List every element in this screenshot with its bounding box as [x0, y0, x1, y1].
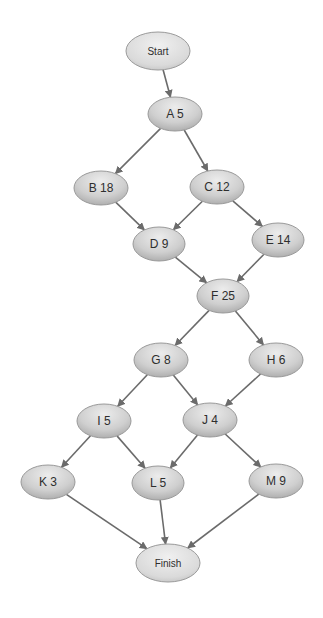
- node-D: D 9: [133, 227, 185, 261]
- node-label: Start: [147, 46, 168, 57]
- node-label: L 5: [150, 476, 167, 490]
- node-label: K 3: [39, 475, 57, 489]
- node-K: K 3: [21, 465, 75, 499]
- node-label: H 6: [267, 353, 286, 367]
- edge-G-to-J: [173, 375, 197, 405]
- node-F: F 25: [197, 279, 249, 313]
- edge-I-to-K: [62, 436, 91, 468]
- node-label: M 9: [266, 474, 286, 488]
- node-A: A 5: [148, 97, 202, 131]
- node-label: A 5: [166, 107, 184, 121]
- activity-network-diagram: StartA 5B 18C 12D 9E 14F 25G 8H 6I 5J 4K…: [0, 0, 323, 618]
- node-label: B 18: [89, 181, 114, 195]
- edge-G-to-I: [118, 375, 148, 407]
- node-E: E 14: [252, 223, 304, 257]
- edge-B-to-D: [116, 202, 145, 230]
- node-L: L 5: [132, 466, 184, 500]
- node-I: I 5: [77, 404, 131, 438]
- edge-J-to-L: [170, 435, 197, 468]
- nodes-layer: StartA 5B 18C 12D 9E 14F 25G 8H 6I 5J 4K…: [21, 32, 304, 582]
- edge-F-to-G: [175, 310, 209, 345]
- edge-I-to-L: [117, 436, 145, 468]
- edge-H-to-J: [225, 374, 260, 406]
- node-label: F 25: [211, 289, 235, 303]
- node-label: D 9: [150, 237, 169, 251]
- edge-start-to-A: [163, 70, 170, 97]
- node-C: C 12: [190, 170, 244, 204]
- edge-F-to-H: [235, 311, 263, 345]
- edge-L-to-finish: [160, 500, 166, 544]
- node-B: B 18: [74, 171, 128, 205]
- edge-E-to-F: [237, 254, 264, 281]
- node-label: J 4: [202, 413, 218, 427]
- edge-K-to-finish: [66, 494, 146, 548]
- edge-D-to-F: [175, 257, 206, 283]
- node-J: J 4: [183, 403, 237, 437]
- node-label: G 8: [151, 353, 171, 367]
- node-G: G 8: [134, 343, 188, 377]
- node-H: H 6: [249, 343, 303, 377]
- edge-M-to-finish: [188, 494, 259, 548]
- edge-J-to-M: [225, 434, 261, 467]
- edge-A-to-B: [115, 128, 160, 173]
- node-label: I 5: [97, 414, 111, 428]
- node-label: C 12: [204, 180, 230, 194]
- node-label: Finish: [155, 558, 182, 569]
- edge-A-to-C: [184, 130, 208, 171]
- node-finish: Finish: [136, 544, 200, 582]
- edge-C-to-D: [173, 201, 202, 230]
- node-start: Start: [126, 32, 190, 70]
- node-label: E 14: [266, 233, 291, 247]
- node-M: M 9: [249, 464, 303, 498]
- edge-C-to-E: [233, 201, 263, 227]
